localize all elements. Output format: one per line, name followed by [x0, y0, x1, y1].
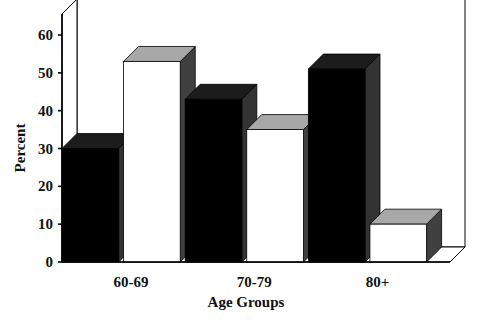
x-axis-title: Age Groups: [208, 294, 285, 310]
y-tick-label: 10: [38, 216, 53, 232]
bar-front-face: [124, 61, 181, 262]
bar-60-69-series-1: [62, 134, 134, 263]
x-category-label: 60-69: [114, 274, 149, 290]
chart-canvas: 0102030405060 60-6970-7980+ Percent Age …: [0, 0, 483, 322]
y-tick-label: 30: [38, 141, 53, 157]
y-tick-label: 50: [38, 65, 53, 81]
y-tick-label: 0: [46, 254, 54, 270]
bar-70-79-series-1: [185, 84, 257, 262]
y-tick-label: 60: [38, 27, 53, 43]
bar-70-79-series-2: [247, 115, 319, 262]
bar-front-face: [185, 99, 242, 262]
bar-front-face: [247, 130, 304, 262]
y-axis-title: Percent: [12, 124, 28, 173]
bar-80plus-series-2: [370, 209, 442, 262]
bar-60-69-series-2: [124, 46, 196, 262]
bar-front-face: [62, 149, 119, 263]
bar-chart: 0102030405060 60-6970-7980+ Percent Age …: [0, 0, 483, 322]
x-category-label: 80+: [366, 274, 390, 290]
x-category-label: 70-79: [237, 274, 272, 290]
y-tick-label: 20: [38, 178, 53, 194]
bar-front-face: [308, 69, 365, 262]
y-tick-label: 40: [38, 103, 53, 119]
bar-80plus-series-1: [308, 54, 380, 262]
bar-front-face: [370, 224, 427, 262]
